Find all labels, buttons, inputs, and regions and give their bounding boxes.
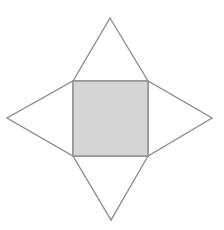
top-face <box>73 18 148 81</box>
right-face <box>148 81 212 156</box>
bottom-face <box>73 156 148 220</box>
base-square <box>73 81 148 156</box>
left-face <box>7 81 73 156</box>
pyramid-net-diagram <box>0 0 224 230</box>
